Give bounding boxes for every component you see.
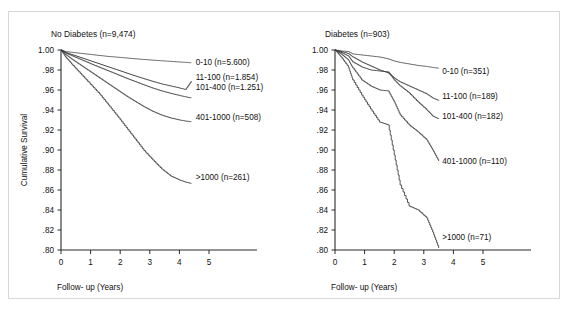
series-label: 401-1000 (n=110)	[442, 157, 507, 166]
series-label: 0-10 (n=351)	[442, 67, 489, 76]
y-tick-label: .80	[43, 246, 55, 255]
panel-title: Diabetes (n=903)	[325, 29, 390, 39]
y-tick-label: .98	[43, 66, 55, 75]
y-tick-label: .86	[317, 186, 329, 195]
series-label: 0-10 (n=5.600)	[196, 58, 250, 67]
survival-curve	[335, 50, 439, 248]
x-axis-title: Follow- up (Years)	[331, 283, 397, 292]
y-tick-label: .82	[43, 226, 55, 235]
y-tick-label: .80	[317, 246, 329, 255]
y-tick-label: .90	[317, 146, 329, 155]
series-label: 101-400 (n=182)	[442, 112, 503, 121]
series-label: 401-1000 (n=508)	[196, 113, 262, 122]
y-tick-label: .82	[317, 226, 329, 235]
chart-diabetes: Diabetes (n=903)1.00.98.96.94.92.90.88.8…	[283, 12, 561, 300]
y-tick-label: .86	[43, 186, 55, 195]
survival-curve	[61, 50, 191, 90]
y-tick-label: .88	[43, 166, 55, 175]
x-tick-label: 4	[177, 258, 182, 267]
y-tick-label: .84	[317, 206, 329, 215]
x-tick-label: 1	[88, 258, 93, 267]
panel-diabetes: Diabetes (n=903)1.00.98.96.94.92.90.88.8…	[283, 12, 561, 300]
panel-no-diabetes: No Diabetes (n=9,474)1.00.98.96.94.92.90…	[9, 12, 287, 300]
y-axis-title: Cumulative Survival	[20, 114, 29, 187]
figure-container: No Diabetes (n=9,474)1.00.98.96.94.92.90…	[0, 0, 570, 315]
y-tick-label: .94	[317, 106, 329, 115]
x-tick-label: 5	[481, 258, 486, 267]
survival-curve	[335, 50, 439, 119]
x-tick-label: 5	[207, 258, 212, 267]
x-tick-label: 3	[148, 258, 153, 267]
y-tick-label: .84	[43, 206, 55, 215]
survival-curve	[61, 50, 191, 63]
x-tick-label: 4	[451, 258, 456, 267]
y-tick-label: .92	[317, 126, 329, 135]
figure-border: No Diabetes (n=9,474)1.00.98.96.94.92.90…	[8, 11, 560, 299]
y-tick-label: .96	[43, 86, 55, 95]
survival-curve	[335, 50, 439, 161]
x-tick-label: 2	[118, 258, 123, 267]
y-tick-label: .94	[43, 106, 55, 115]
x-axis-title: Follow- up (Years)	[57, 283, 123, 292]
y-tick-label: .96	[317, 86, 329, 95]
series-label: >1000 (n=71)	[442, 233, 491, 242]
series-label: 11-100 (n=189)	[442, 92, 498, 101]
x-tick-label: 3	[422, 258, 427, 267]
x-tick-label: 0	[59, 258, 64, 267]
series-label: 101-400 (n=1.251)	[196, 83, 264, 92]
y-tick-label: .98	[317, 66, 329, 75]
panel-title: No Diabetes (n=9,474)	[51, 29, 136, 39]
series-label: >1000 (n=261)	[196, 173, 250, 182]
y-tick-label: .92	[43, 126, 55, 135]
y-tick-label: 1.00	[38, 46, 54, 55]
x-tick-label: 2	[392, 258, 397, 267]
y-tick-label: 1.00	[312, 46, 328, 55]
survival-curve	[61, 50, 191, 184]
y-tick-label: .88	[317, 166, 329, 175]
x-tick-label: 1	[362, 258, 367, 267]
chart-no-diabetes: No Diabetes (n=9,474)1.00.98.96.94.92.90…	[9, 12, 287, 300]
x-tick-label: 0	[333, 258, 338, 267]
y-tick-label: .90	[43, 146, 55, 155]
series-label: 11-100 (n=1.854)	[196, 73, 259, 82]
